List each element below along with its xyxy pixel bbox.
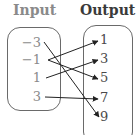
mapping-arrow [48,41,98,60]
mapping-arrows [0,0,137,135]
function-mapping-diagram: Input Output −3 −1 1 3 1 3 5 7 9 [0,0,137,135]
mapping-arrow [45,97,98,99]
mapping-arrow [44,42,99,117]
